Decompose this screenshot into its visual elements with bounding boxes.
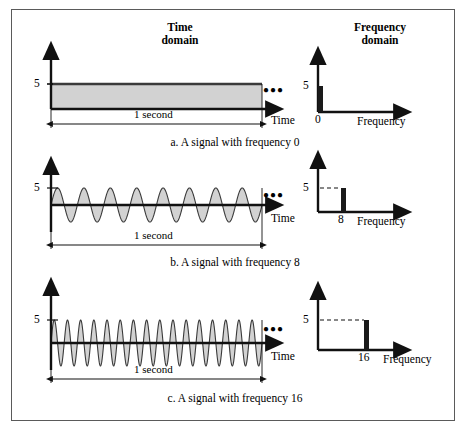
row-a-ellipsis-icon: ●●● [263, 84, 284, 95]
row-a-time-amplitude-label: 5 [34, 77, 40, 89]
row-b-duration-label: 1 second [134, 229, 173, 241]
row-b-ellipsis-icon: ●●● [263, 189, 284, 200]
cropped-text-sliver: · · · · · · · [0, 0, 470, 5]
row-a-freq-peak-tick-label: 0 [315, 113, 321, 125]
row-b-freq-x-axis-label: Frequency [357, 215, 406, 227]
row-c-duration-label: 1 second [134, 363, 173, 375]
row-c-ellipsis-icon: ●●● [263, 323, 284, 334]
row-a-time-x-axis-label: Time [271, 114, 295, 126]
row-a-freq-amplitude-label: 5 [303, 79, 309, 91]
row-b-time-amplitude-label: 5 [34, 181, 40, 193]
time-domain-header: Time domain [130, 21, 230, 47]
row-c-time-amplitude-label: 5 [34, 313, 40, 325]
row-c-freq-amplitude-label: 5 [303, 313, 309, 325]
row-a-duration-label: 1 second [134, 108, 173, 120]
frequency-domain-header: Frequency domain [330, 21, 430, 47]
row-c-freq-x-axis-label: Frequency [383, 353, 432, 365]
row-b-caption: b. A signal with frequency 8 [85, 256, 385, 268]
row-b-freq-peak-tick-label: 8 [338, 213, 344, 225]
row-b-time-x-axis-label: Time [271, 212, 295, 224]
row-b-freq-amplitude-label: 5 [303, 181, 309, 193]
row-c-freq-peak-tick-label: 16 [358, 351, 370, 363]
row-a-freq-x-axis-label: Frequency [357, 115, 406, 127]
row-a-caption: a. A signal with frequency 0 [85, 136, 385, 148]
row-c-caption: c. A signal with frequency 16 [85, 392, 385, 404]
row-c-time-x-axis-label: Time [271, 350, 295, 362]
